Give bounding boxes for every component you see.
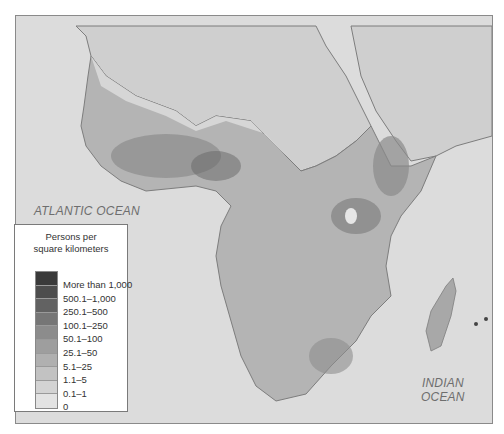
legend-swatch [36, 272, 57, 286]
legend-swatch [36, 299, 57, 313]
legend-swatch [36, 354, 57, 368]
legend-label: 5.1–25 [63, 360, 132, 374]
legend-label: 50.1–100 [63, 332, 132, 346]
south-africa-dense [309, 338, 353, 374]
legend-title-line1: Persons per [15, 231, 127, 243]
atlantic-ocean-label: ATLANTIC OCEAN [34, 204, 140, 218]
legend-swatch [36, 313, 57, 327]
legend-label: 100.1–250 [63, 319, 132, 333]
legend-labels: More than 1,000500.1–1,000250.1–500100.1… [63, 278, 132, 414]
indian-ocean-label-line2: OCEAN [421, 390, 465, 404]
lake-victoria [345, 208, 357, 224]
nigeria-dense [191, 151, 241, 181]
legend-label: 500.1–1,000 [63, 292, 132, 306]
island [474, 322, 478, 326]
legend-label: 250.1–500 [63, 305, 132, 319]
legend-label: 25.1–50 [63, 346, 132, 360]
legend-swatch [36, 326, 57, 340]
legend-swatches [35, 271, 58, 409]
ethiopia-dense [373, 136, 409, 196]
legend-swatch [36, 367, 57, 381]
map-legend: Persons per square kilometers More than … [14, 224, 128, 412]
legend-label: More than 1,000 [63, 278, 132, 292]
island [484, 317, 488, 321]
indian-ocean-label: INDIAN OCEAN [421, 376, 465, 404]
legend-label: 1.1–5 [63, 373, 132, 387]
legend-label: 0 [63, 400, 132, 414]
legend-title: Persons per square kilometers [15, 231, 127, 255]
indian-ocean-label-line1: INDIAN [421, 376, 465, 390]
legend-swatch [36, 340, 57, 354]
legend-title-line2: square kilometers [15, 243, 127, 255]
madagascar [426, 278, 456, 351]
legend-swatch [36, 381, 57, 395]
legend-label: 0.1–1 [63, 387, 132, 401]
legend-swatch [36, 286, 57, 300]
legend-swatch [36, 394, 57, 408]
